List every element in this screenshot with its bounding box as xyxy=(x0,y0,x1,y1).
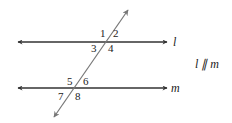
angle-label-2: 2 xyxy=(113,27,119,39)
parallel-lines-diagram: l m l ∥ m 1 2 3 4 5 6 7 8 xyxy=(0,0,232,123)
angle-label-3: 3 xyxy=(91,42,97,54)
angle-label-8: 8 xyxy=(75,90,81,102)
parallel-relation: l ∥ m xyxy=(195,57,219,71)
angle-label-5: 5 xyxy=(67,75,73,87)
line-l-label: l xyxy=(173,35,177,49)
line-m-label: m xyxy=(171,81,180,95)
angle-label-4: 4 xyxy=(108,42,114,54)
angle-label-1: 1 xyxy=(100,27,106,39)
angle-label-7: 7 xyxy=(58,90,64,102)
angle-label-6: 6 xyxy=(83,75,89,87)
